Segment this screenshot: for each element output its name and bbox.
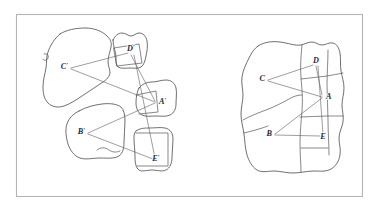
cut-seam-d-a	[301, 73, 343, 79]
piece-b-prime	[66, 104, 125, 159]
connector-b-e-prime	[88, 134, 153, 159]
figure-canvas: C′D′A′B′E′	[0, 0, 380, 212]
right-panel: CDABE	[241, 42, 344, 173]
label-a-prime: A′	[158, 96, 166, 106]
connector-d-e-prime	[134, 55, 155, 158]
connector-c-d	[268, 65, 313, 80]
assembled-cut-lines	[243, 45, 343, 172]
piece-c-prime	[43, 28, 111, 107]
assembled-outline	[241, 42, 344, 173]
label-b-prime: B′	[77, 126, 85, 136]
connector-b-a	[275, 98, 322, 134]
label-c-prime: C′	[61, 61, 68, 71]
connector-c-a	[268, 81, 322, 97]
cut-seam-vertical-right	[327, 50, 329, 155]
label-b: B	[266, 129, 273, 138]
right-connectors	[268, 65, 323, 136]
dissection-figure: C′D′A′B′E′	[0, 0, 380, 212]
label-d: D	[312, 56, 319, 65]
label-d-prime: D′	[126, 43, 135, 53]
cut-seam-c-lower	[243, 95, 302, 120]
label-a: A	[325, 92, 332, 101]
label-e-prime: E′	[151, 153, 159, 163]
connector-b-e	[275, 135, 320, 136]
label-c: C	[260, 74, 266, 83]
piece-a-prime	[136, 80, 176, 116]
piece-a-prime-inner-cut	[136, 91, 158, 114]
left-panel: C′D′A′B′E′	[43, 28, 176, 171]
label-e: E	[319, 132, 326, 141]
piece-b-prime-inner-cut	[97, 148, 120, 152]
piece-c-prime-notch	[43, 54, 48, 61]
left-connectors	[71, 53, 155, 159]
left-labels: C′D′A′B′E′	[61, 43, 167, 163]
cut-seam-vertical-main	[300, 45, 302, 172]
cut-seam-c-lower-left	[244, 126, 268, 133]
